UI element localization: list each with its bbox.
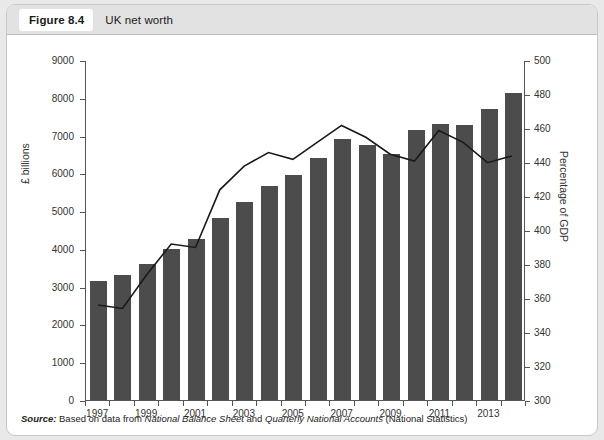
gdp-percentage-line — [98, 125, 512, 308]
y-axis-right-tick — [525, 197, 530, 198]
y-axis-left-label: 8000 — [32, 93, 74, 104]
y-axis-right-tick — [525, 231, 530, 232]
line-series-layer — [86, 61, 524, 400]
y-axis-right-label: 440 — [534, 157, 576, 168]
x-axis-tick — [109, 401, 110, 406]
source-publication-2: Quarterly National Accounts — [265, 413, 383, 424]
y-axis-right-tick — [525, 367, 530, 368]
y-axis-right-label: 400 — [534, 225, 576, 236]
x-axis-tick — [354, 401, 355, 406]
source-text-1: Based on data from — [56, 413, 144, 424]
source-text-3: (National Statistics) — [383, 413, 467, 424]
x-axis-tick — [329, 401, 330, 406]
y-axis-left-label: 1000 — [32, 357, 74, 368]
y-axis-left-label: 9000 — [32, 55, 74, 66]
y-axis-right-tick — [525, 61, 530, 62]
x-axis-label: 2013 — [468, 408, 508, 419]
x-axis-tick — [427, 401, 428, 406]
y-axis-left-label: 5000 — [32, 206, 74, 217]
x-axis-tick — [452, 401, 453, 406]
x-axis-tick — [232, 401, 233, 406]
source-note: Source: Based on data from National Bala… — [21, 413, 467, 424]
y-axis-left-label: 3000 — [32, 282, 74, 293]
y-axis-right-label: 500 — [534, 55, 576, 66]
y-axis-right-label: 460 — [534, 123, 576, 134]
y-axis-left-title: £ billions — [19, 143, 31, 184]
source-text-2: and — [244, 413, 265, 424]
y-axis-right-tick — [525, 333, 530, 334]
y-axis-right-label: 480 — [534, 89, 576, 100]
x-axis-tick — [158, 401, 159, 406]
figure-header: Figure 8.4 UK net worth — [7, 5, 597, 35]
x-axis-tick — [378, 401, 379, 406]
y-axis-left-label: 4000 — [32, 244, 74, 255]
x-axis-tick — [256, 401, 257, 406]
y-axis-right-tick — [525, 299, 530, 300]
y-axis-right-label: 320 — [534, 361, 576, 372]
x-axis-tick — [281, 401, 282, 406]
source-publication-1: National Balance Sheet — [145, 413, 244, 424]
figure-caption: UK net worth — [105, 14, 173, 26]
x-axis-tick — [183, 401, 184, 406]
y-axis-left-label: 0 — [32, 395, 74, 406]
plot-area — [85, 61, 525, 401]
y-axis-left-label: 2000 — [32, 319, 74, 330]
y-axis-right-tick — [525, 95, 530, 96]
x-axis-tick — [134, 401, 135, 406]
y-axis-left-label: 7000 — [32, 131, 74, 142]
y-axis-left-label: 6000 — [32, 168, 74, 179]
x-axis-tick — [476, 401, 477, 406]
x-axis-tick — [85, 401, 86, 406]
x-axis-tick — [305, 401, 306, 406]
chart-canvas: £ billions Percentage of GDP 01000200030… — [7, 36, 598, 407]
source-label: Source: — [21, 413, 56, 424]
figure-number: Figure 8.4 — [19, 9, 93, 31]
y-axis-right-tick — [525, 129, 530, 130]
y-axis-right-label: 300 — [534, 395, 576, 406]
y-axis-right-label: 380 — [534, 259, 576, 270]
y-axis-right-label: 360 — [534, 293, 576, 304]
x-axis-tick — [403, 401, 404, 406]
x-axis-tick — [207, 401, 208, 406]
y-axis-right-label: 420 — [534, 191, 576, 202]
y-axis-right-label: 340 — [534, 327, 576, 338]
x-axis-tick — [525, 401, 526, 406]
y-axis-right-tick — [525, 163, 530, 164]
y-axis-right-tick — [525, 265, 530, 266]
figure-panel: Figure 8.4 UK net worth £ billions Perce… — [6, 4, 598, 436]
x-axis-tick — [501, 401, 502, 406]
